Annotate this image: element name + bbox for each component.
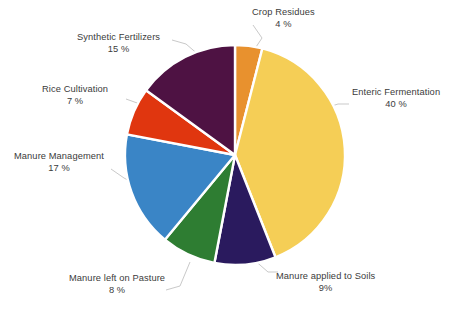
pie-label-enteric-fermentation-name: Enteric Fermentation [352, 86, 440, 98]
pie-label-rice-cultivation: Rice Cultivation 7 % [42, 83, 108, 108]
pie-label-crop-residues: Crop Residues 4 % [252, 6, 315, 31]
pie-label-manure-applied-to-soils-value: 9% [276, 282, 375, 294]
pie-label-rice-cultivation-name: Rice Cultivation [42, 83, 108, 95]
pie-label-synthetic-fertilizers-name: Synthetic Fertilizers [77, 31, 160, 43]
pie-label-manure-left-on-pasture-name: Manure left on Pasture [69, 272, 165, 284]
pie-label-manure-applied-to-soils: Manure applied to Soils 9% [276, 270, 375, 295]
pie-slice-group: Crop Residues 4 %Enteric Fermentation 40… [125, 45, 345, 265]
pie-label-enteric-fermentation-value: 40 % [352, 98, 440, 110]
pie-label-crop-residues-value: 4 % [252, 18, 315, 30]
pie-label-manure-left-on-pasture: Manure left on Pasture 8 % [69, 272, 165, 297]
pie-label-rice-cultivation-value: 7 % [42, 95, 108, 107]
pie-label-manure-management-value: 17 % [14, 162, 104, 174]
pie-label-synthetic-fertilizers: Synthetic Fertilizers 15 % [77, 31, 160, 56]
pie-label-crop-residues-name: Crop Residues [252, 6, 315, 18]
pie-label-manure-left-on-pasture-value: 8 % [69, 284, 165, 296]
pie-label-manure-management: Manure Management 17 % [14, 150, 104, 175]
pie-label-manure-applied-to-soils-name: Manure applied to Soils [276, 270, 375, 282]
pie-chart: Crop Residues 4 %Enteric Fermentation 40… [0, 0, 459, 317]
leader-line-manure-pasture [166, 262, 190, 290]
pie-label-manure-management-name: Manure Management [14, 150, 104, 162]
pie-label-synthetic-fertilizers-value: 15 % [77, 43, 160, 55]
pie-label-enteric-fermentation: Enteric Fermentation 40 % [352, 86, 440, 111]
